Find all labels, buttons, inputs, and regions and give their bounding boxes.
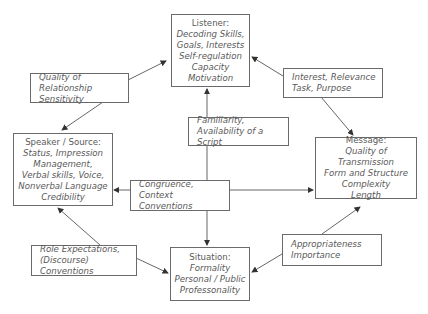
- factor-relationship: Quality of Relationship Sensitivity: [30, 73, 129, 103]
- situation-line: Formality: [190, 263, 231, 274]
- speaker-line: Nonverbal Language: [18, 181, 107, 192]
- factor-line: Interest, Relevance: [292, 72, 382, 83]
- listener-line: Capacity: [192, 62, 230, 73]
- factor-role: Role Expectations, (Discourse) Conventio…: [31, 245, 137, 276]
- factor-line: Familiarity,: [197, 115, 288, 126]
- message-line: Complexity: [342, 179, 391, 190]
- listener-line: Goals, Interests: [177, 40, 244, 51]
- factor-line: (Discourse) Conventions: [40, 255, 136, 277]
- factor-line: Quality of Relationship: [39, 72, 128, 94]
- node-message: Message: Quality of Transmission Form an…: [315, 137, 417, 199]
- factor-line: Congruence, Context: [139, 179, 229, 201]
- listener-title: Listener:: [192, 18, 229, 29]
- factor-familiarity: Familiarity, Availability of a Script: [188, 117, 289, 146]
- speaker-title: Speaker / Source:: [25, 137, 101, 148]
- factor-line: Sensitivity: [39, 94, 128, 105]
- node-listener: Listener: Decoding Skills, Goals, Intere…: [171, 14, 250, 87]
- arrow-relationship-to-speaker: [62, 102, 103, 130]
- factor-line: Availability of a Script: [197, 126, 288, 148]
- listener-line: Motivation: [188, 73, 233, 84]
- situation-line: Professonality: [180, 285, 240, 296]
- situation-line: Personal / Public: [175, 274, 246, 285]
- node-situation: Situation: Formality Personal / Public P…: [170, 247, 250, 301]
- arrow-interest-to-message: [321, 97, 353, 135]
- speaker-line: Management,: [33, 159, 92, 170]
- node-speaker: Speaker / Source: Status, Impression Man…: [13, 133, 113, 206]
- factor-line: Task, Purpose: [292, 83, 382, 94]
- listener-line: Decoding Skills,: [176, 29, 244, 40]
- speaker-line: Status, Impression: [23, 148, 103, 159]
- message-line: Length: [351, 190, 381, 201]
- arrow-role-to-situation: [136, 258, 168, 273]
- arrow-role-to-speaker: [58, 208, 100, 245]
- speaker-line: Credibility: [41, 192, 85, 203]
- message-title: Message:: [346, 135, 387, 146]
- factor-congruence: Congruence, Context Conventions: [130, 180, 230, 211]
- factor-appropriateness: Appropriateness Importance: [282, 234, 382, 266]
- factor-line: Importance: [291, 250, 381, 261]
- factor-line: Conventions: [139, 201, 229, 212]
- factor-interest: Interest, Relevance Task, Purpose: [283, 68, 383, 98]
- arrow-relationship-to-listener: [128, 61, 166, 80]
- message-line: Quality of Transmission: [316, 146, 416, 168]
- factor-line: Appropriateness: [291, 239, 381, 250]
- arrow-interest-to-listener: [252, 57, 283, 76]
- listener-line: Self-regulation: [179, 51, 242, 62]
- arrow-appropriateness-to-situation: [252, 254, 282, 272]
- situation-title: Situation:: [189, 252, 230, 263]
- message-line: Form and Structure: [324, 168, 408, 179]
- arrow-appropriateness-to-message: [322, 207, 360, 234]
- factor-line: Role Expectations,: [40, 244, 136, 255]
- speaker-line: Verbal skills, Voice,: [22, 170, 104, 181]
